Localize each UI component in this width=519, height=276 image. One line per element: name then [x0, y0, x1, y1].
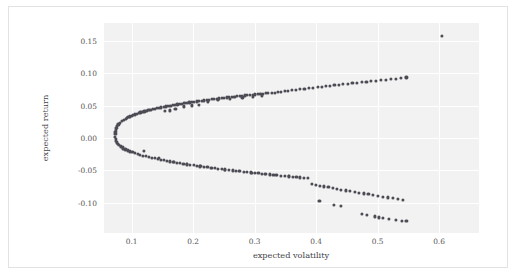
scatter-point — [387, 217, 390, 220]
scatter-point — [299, 176, 302, 179]
scatter-point — [441, 34, 444, 37]
scatter-point — [340, 188, 343, 191]
scatter-point — [261, 94, 264, 97]
scatter-point — [306, 176, 309, 179]
scatter-point — [372, 193, 375, 196]
scatter-point — [229, 97, 232, 100]
scatter-point — [310, 182, 313, 185]
x-tick-label: 0.1 — [126, 237, 138, 246]
scatter-point — [400, 76, 403, 79]
x-tick-label: 0.6 — [433, 237, 445, 246]
scatter-plot-area — [104, 23, 479, 233]
y-tick-label: 0.05 — [81, 101, 97, 110]
scatter-point — [342, 83, 345, 86]
scatter-point — [389, 77, 392, 80]
grid-line-vertical — [316, 23, 317, 233]
scatter-point — [377, 216, 380, 219]
grid-line-vertical — [132, 23, 133, 233]
scatter-point — [303, 87, 306, 90]
scatter-point — [163, 109, 166, 112]
scatter-point — [311, 86, 314, 89]
figure-frame: expected volatility expected return 0.10… — [8, 6, 508, 268]
scatter-point — [394, 77, 397, 80]
grid-line-horizontal — [104, 73, 479, 74]
scatter-point — [366, 213, 369, 216]
scatter-point — [241, 96, 244, 99]
scatter-point — [174, 107, 177, 110]
scatter-point — [320, 85, 323, 88]
scatter-point — [360, 81, 363, 84]
scatter-point — [396, 197, 399, 200]
scatter-point — [206, 100, 209, 103]
scatter-point — [142, 149, 145, 152]
scatter-point — [381, 195, 384, 198]
scatter-point — [332, 203, 335, 206]
scatter-point — [344, 189, 347, 192]
scatter-point — [370, 79, 373, 82]
scatter-point — [391, 197, 394, 200]
scatter-point — [346, 82, 349, 85]
scatter-point — [337, 83, 340, 86]
scatter-point — [361, 212, 364, 215]
scatter-point — [331, 186, 334, 189]
scatter-point — [401, 198, 404, 201]
scatter-point — [216, 98, 219, 101]
scatter-point — [295, 175, 298, 178]
y-tick-label: -0.05 — [78, 166, 97, 175]
scatter-point — [316, 86, 319, 89]
scatter-point — [283, 174, 286, 177]
x-tick-label: 0.2 — [187, 237, 199, 246]
scatter-point — [333, 84, 336, 87]
scatter-point — [299, 88, 302, 91]
x-tick-label: 0.5 — [372, 237, 384, 246]
grid-line-vertical — [255, 23, 256, 233]
scatter-point — [362, 192, 365, 195]
grid-line-horizontal — [104, 203, 479, 204]
scatter-point — [367, 193, 370, 196]
scatter-point — [405, 76, 408, 79]
y-axis-label: expected return — [40, 95, 50, 162]
scatter-point — [294, 88, 297, 91]
scatter-point — [376, 194, 379, 197]
x-axis-label: expected volatility — [253, 250, 329, 260]
grid-line-vertical — [439, 23, 440, 233]
y-tick-label: 0.10 — [81, 69, 97, 78]
x-tick-label: 0.3 — [249, 237, 261, 246]
scatter-point — [318, 184, 321, 187]
scatter-point — [291, 175, 294, 178]
scatter-point — [351, 82, 354, 85]
grid-line-horizontal — [104, 170, 479, 171]
scatter-point — [394, 218, 397, 221]
scatter-point — [339, 205, 342, 208]
scatter-point — [324, 85, 327, 88]
scatter-point — [401, 219, 404, 222]
scatter-point — [322, 185, 325, 188]
scatter-point — [335, 187, 338, 190]
scatter-point — [405, 220, 408, 223]
y-tick-label: 0.00 — [81, 134, 97, 143]
scatter-point — [287, 175, 290, 178]
scatter-point — [182, 105, 185, 108]
scatter-point — [279, 174, 282, 177]
grid-line-horizontal — [104, 138, 479, 139]
y-tick-label: -0.10 — [78, 198, 97, 207]
scatter-point — [257, 172, 260, 175]
scatter-point — [358, 191, 361, 194]
scatter-point — [307, 87, 310, 90]
grid-line-vertical — [378, 23, 379, 233]
scatter-point — [386, 196, 389, 199]
scatter-point — [379, 78, 382, 81]
scatter-point — [349, 190, 352, 193]
scatter-point — [168, 109, 171, 112]
scatter-point — [365, 80, 368, 83]
grid-line-vertical — [193, 23, 194, 233]
scatter-point — [353, 190, 356, 193]
scatter-point — [327, 186, 330, 189]
grid-line-horizontal — [104, 41, 479, 42]
y-tick-label: 0.15 — [81, 37, 97, 46]
scatter-point — [329, 84, 332, 87]
scatter-point — [381, 217, 384, 220]
chart-figure: expected volatility expected return 0.10… — [0, 0, 519, 276]
scatter-point — [355, 81, 358, 84]
x-tick-label: 0.4 — [310, 237, 322, 246]
